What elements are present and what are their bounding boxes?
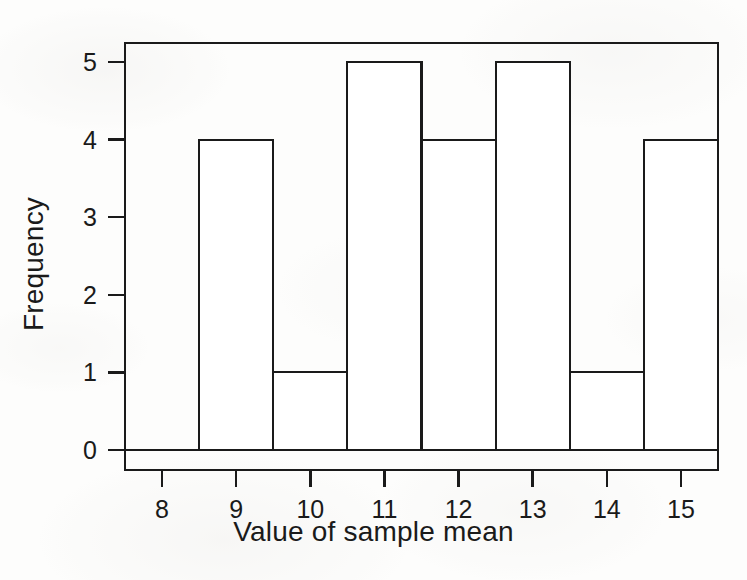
y-axis-title: Frequency bbox=[18, 144, 50, 384]
y-axis-ticks-group bbox=[108, 62, 125, 450]
y-axis-tick-label: 0 bbox=[83, 436, 97, 464]
y-axis-tick-labels-group: 012345 bbox=[83, 48, 97, 464]
histogram-bar bbox=[273, 372, 347, 450]
y-axis-tick-label: 5 bbox=[83, 48, 97, 76]
y-axis-tick-label: 1 bbox=[83, 358, 97, 386]
histogram-bar bbox=[199, 140, 273, 450]
histogram-bar bbox=[644, 140, 718, 450]
x-axis-title: Value of sample mean bbox=[0, 516, 747, 548]
histogram-figure: 89101112131415 012345 Value of sample me… bbox=[0, 0, 747, 580]
histogram-bar bbox=[347, 62, 421, 450]
histogram-bar bbox=[422, 140, 496, 450]
x-axis-ticks-group bbox=[162, 470, 681, 487]
histogram-bar bbox=[570, 372, 644, 450]
histogram-bars-group bbox=[125, 62, 718, 450]
y-axis-tick-label: 4 bbox=[83, 126, 97, 154]
histogram-bar bbox=[496, 62, 570, 450]
y-axis-tick-label: 2 bbox=[83, 281, 97, 309]
histogram-plot-canvas: 89101112131415 012345 bbox=[0, 0, 747, 580]
y-axis-tick-label: 3 bbox=[83, 203, 97, 231]
